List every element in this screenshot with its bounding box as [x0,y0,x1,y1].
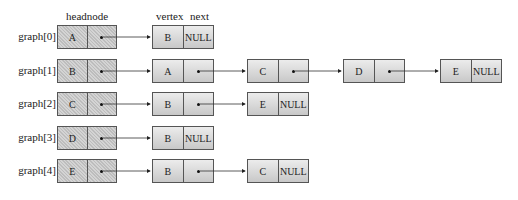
arrows-layer [0,0,518,200]
